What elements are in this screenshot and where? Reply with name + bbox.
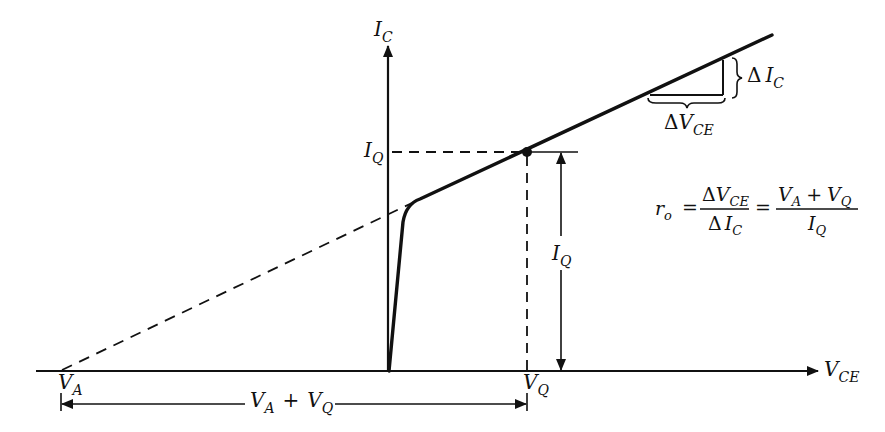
early-extrapolation-dashed-line [62, 203, 412, 370]
delta-vce-brace [648, 98, 725, 108]
eq-frac1-numerator: ΔVCE [702, 183, 749, 209]
early-voltage-diagram: VCE IC IQ IQ VA VQ VA+VQ [0, 0, 885, 432]
eq-lhs: ro [655, 197, 672, 223]
iq-axis-label: IQ [363, 138, 384, 166]
delta-ic-label: ΔIC [747, 63, 784, 91]
output-resistance-equation: ro = ΔVCE ΔIC = VA+VQ IQ [655, 183, 858, 238]
eq-equals-1: = [682, 196, 698, 218]
y-axis-label: IC [373, 17, 393, 45]
delta-vce-label: ΔVCE [664, 110, 714, 138]
va-plus-vq-label: VA+VQ [250, 388, 334, 416]
eq-frac1-denominator: ΔIC [708, 212, 742, 238]
eq-frac2-numerator: VA+VQ [778, 183, 852, 209]
delta-ic-brace [732, 58, 742, 98]
iq-dimension-label: IQ [551, 241, 572, 269]
x-axis-label: VCE [824, 357, 859, 385]
q-point-dot [522, 147, 532, 157]
slope-triangle [650, 60, 723, 95]
eq-frac2-denominator: IQ [807, 212, 827, 238]
eq-equals-2: = [755, 196, 771, 218]
